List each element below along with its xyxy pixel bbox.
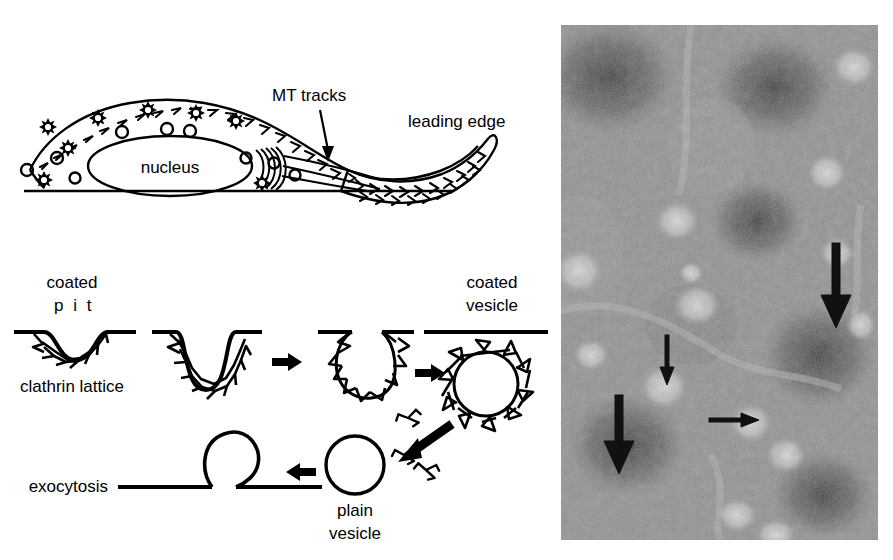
budding-vesicle-clathrin bbox=[329, 334, 409, 401]
plain-vesicle-outline bbox=[326, 436, 384, 494]
illustration-svg: nucleus bbox=[0, 0, 556, 560]
coated-pit-label-line2: p i t bbox=[54, 296, 94, 315]
cell-schematic: nucleus bbox=[21, 86, 505, 205]
endocytosis-cycle: coated p i t clathrin lattice bbox=[14, 273, 548, 543]
leading-edge-label: leading edge bbox=[408, 112, 505, 131]
coated-vesicle-label-line2: vesicle bbox=[466, 296, 518, 315]
nucleus-label: nucleus bbox=[141, 158, 200, 177]
exocytosis-label: exocytosis bbox=[29, 477, 108, 496]
coated-vesicle-label-line1: coated bbox=[466, 273, 517, 292]
plain-vesicle-label-line1: plain bbox=[337, 501, 373, 520]
deep-pit-clathrin-lattice bbox=[168, 334, 251, 399]
clathrin-lattice-label: clathrin lattice bbox=[20, 377, 124, 396]
exocytosis-fusing-vesicle bbox=[205, 432, 259, 487]
cycle-arrow-3 bbox=[286, 463, 316, 481]
coated-pit-label-line1: coated bbox=[46, 273, 97, 292]
scientific-figure: nucleus bbox=[0, 0, 893, 560]
plain-vesicle-label-line2: vesicle bbox=[329, 524, 381, 543]
mt-tracks-label: MT tracks bbox=[272, 86, 346, 105]
micrograph-svg bbox=[561, 25, 878, 540]
micrograph-panel bbox=[561, 25, 878, 540]
mt-tracks-pointer-line bbox=[320, 110, 328, 150]
cycle-arrow-1 bbox=[272, 353, 302, 371]
illustration-panel: nucleus bbox=[0, 0, 556, 560]
electron-micrograph-image bbox=[561, 25, 878, 540]
mt-tracks-pointer-head bbox=[322, 146, 334, 162]
micrograph-coarse-grain bbox=[561, 25, 878, 540]
